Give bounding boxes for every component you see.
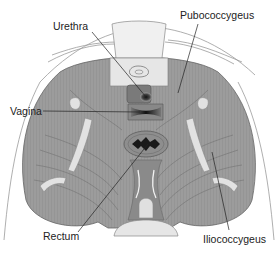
label-pubococcygeus: Pubococcygeus xyxy=(180,10,254,21)
pelvic-floor-illustration xyxy=(0,0,278,258)
pubic-region xyxy=(110,58,168,86)
pubic-symphysis xyxy=(112,21,166,58)
label-iliococcygeus: Iliococcygeus xyxy=(203,234,266,245)
label-urethra: Urethra xyxy=(53,21,88,32)
label-rectum: Rectum xyxy=(43,231,79,242)
label-vagina: Vagina xyxy=(10,106,42,117)
pelvic-floor-diagram: Urethra Pubococcygeus Vagina Rectum Ilio… xyxy=(0,0,278,258)
coccyx xyxy=(139,198,153,218)
